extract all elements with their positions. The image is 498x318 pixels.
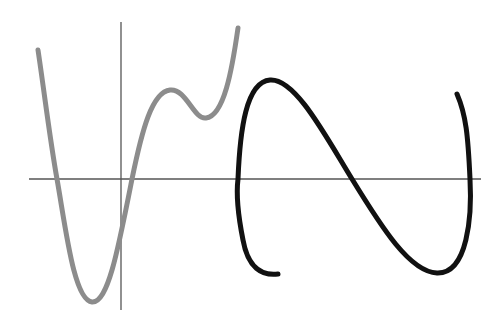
diagram-canvas [0,0,498,318]
